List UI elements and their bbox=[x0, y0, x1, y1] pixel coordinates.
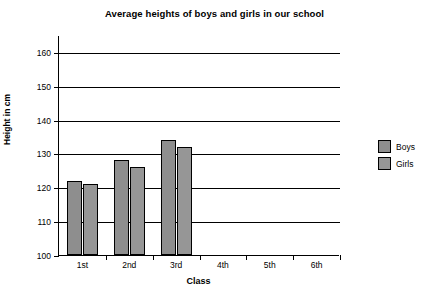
x-tick-mark bbox=[293, 255, 294, 260]
legend-item-boys[interactable]: Boys bbox=[378, 140, 415, 153]
x-tick-mark bbox=[153, 255, 154, 260]
gridline bbox=[59, 121, 340, 122]
x-tick-mark bbox=[246, 255, 247, 260]
gridline bbox=[59, 188, 340, 189]
legend-label: Girls bbox=[396, 159, 413, 169]
legend-label: Boys bbox=[396, 142, 415, 152]
y-tick-mark bbox=[54, 53, 59, 54]
bar-girls-1st bbox=[83, 184, 98, 255]
y-tick-mark bbox=[54, 154, 59, 155]
bar-girls-2nd bbox=[130, 167, 145, 255]
gridline bbox=[59, 154, 340, 155]
x-tick-label: 3rd bbox=[170, 260, 182, 270]
x-tick-mark bbox=[340, 255, 341, 260]
y-tick-label: 120 bbox=[37, 183, 51, 193]
chart-container: Average heights of boys and girls in our… bbox=[0, 0, 429, 298]
y-tick-label: 150 bbox=[37, 82, 51, 92]
x-tick-mark bbox=[106, 255, 107, 260]
x-tick-label: 4th bbox=[217, 260, 229, 270]
x-tick-label: 2nd bbox=[122, 260, 136, 270]
gridline bbox=[59, 222, 340, 223]
chart-title: Average heights of boys and girls in our… bbox=[0, 8, 429, 19]
y-axis-title: Height in cm bbox=[2, 94, 12, 145]
bar-girls-3rd bbox=[177, 147, 192, 255]
bar-boys-1st bbox=[67, 181, 82, 255]
gridline bbox=[59, 87, 340, 88]
y-tick-label: 130 bbox=[37, 149, 51, 159]
x-tick-label: 1st bbox=[77, 260, 88, 270]
chart-legend: BoysGirls bbox=[378, 140, 415, 174]
y-tick-mark bbox=[54, 121, 59, 122]
legend-swatch-icon bbox=[378, 140, 391, 153]
y-tick-mark bbox=[54, 222, 59, 223]
legend-item-girls[interactable]: Girls bbox=[378, 157, 415, 170]
y-tick-mark bbox=[54, 87, 59, 88]
gridline bbox=[59, 53, 340, 54]
x-tick-label: 5th bbox=[264, 260, 276, 270]
y-tick-label: 140 bbox=[37, 116, 51, 126]
legend-swatch-icon bbox=[378, 157, 391, 170]
x-tick-label: 6th bbox=[311, 260, 323, 270]
x-tick-mark bbox=[200, 255, 201, 260]
bar-boys-3rd bbox=[161, 140, 176, 255]
y-tick-label: 100 bbox=[37, 251, 51, 261]
y-tick-label: 110 bbox=[37, 217, 51, 227]
y-tick-mark bbox=[54, 188, 59, 189]
x-axis-title: Class bbox=[58, 276, 339, 286]
plot-area: 1001101201301401501601st2nd3rd4th5th6th bbox=[58, 36, 339, 256]
y-tick-label: 160 bbox=[37, 48, 51, 58]
y-tick-mark bbox=[54, 256, 59, 257]
bar-boys-2nd bbox=[114, 160, 129, 255]
